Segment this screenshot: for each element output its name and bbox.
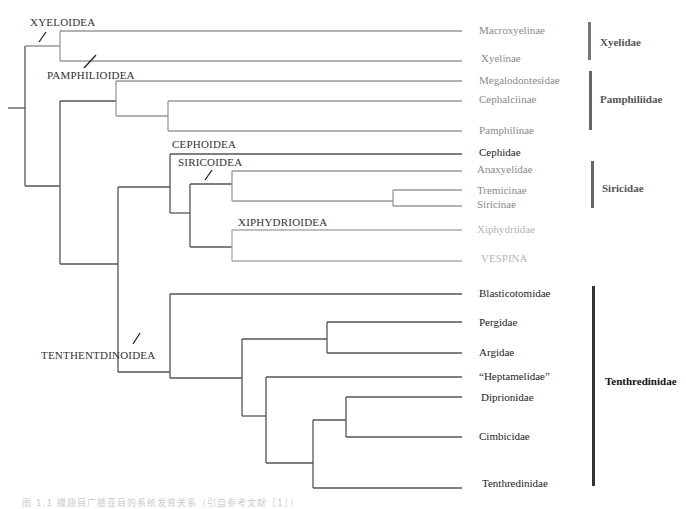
family-label-siricidae: Siricidae [602, 183, 644, 194]
family-label-xyelidae: Xyelidae [600, 37, 641, 48]
leaf-pamphilinae: Pamphilinae [479, 125, 534, 136]
family-bar-xyelidae [588, 22, 591, 60]
family-bar-pamphiliidae [589, 71, 592, 130]
leaf-cephalciinae: Cephalciinae [479, 94, 536, 105]
clade-label-pamphilioidea: PAMPHILIOIDEA [47, 70, 135, 81]
clade-label-siricoidea: SIRICOIDEA [178, 157, 242, 168]
family-bar-tenthredinidae [592, 286, 595, 486]
leaf-tremicinae: Tremicinae [477, 185, 527, 196]
leaf-anaxyelidae: Anaxyelidae [477, 164, 533, 175]
leaf-siricinae: Siricinae [477, 199, 516, 210]
family-bar-siricidae [591, 161, 594, 208]
leaf-xyelinae: Xyelinae [481, 53, 521, 64]
leaf-cephidae: Cephidae [479, 147, 521, 158]
clade-label-xyeloidea: XYELOIDEA [30, 17, 95, 28]
root-branches [8, 46, 118, 372]
family-label-pamphiliidae: Pamphiliidae [600, 94, 662, 105]
clade-label-xiphydrioidea: XIPHYDRIOIDEA [238, 217, 327, 228]
leaf-vespina: VESPINA [481, 253, 527, 264]
leaf-heptamelidae: “Heptamelidae” [479, 371, 550, 382]
family-label-tenthredinidae: Tenthredinidae [605, 376, 677, 387]
tenthredinoidea-branches [118, 294, 462, 488]
xyeloidea-branches [25, 31, 462, 61]
xiphydrioidea-branches [232, 230, 462, 261]
siricoidea-branches [232, 171, 462, 206]
clade-label-cephoidea: CEPHOIDEA [172, 139, 236, 150]
leaf-pergidae: Pergidae [479, 317, 517, 328]
leaf-cimbicidae: Cimbicidae [479, 431, 530, 442]
leaf-argidae: Argidae [479, 347, 514, 358]
figure-caption: 图 1.1 膜翅目广腰亚目的系统发育关系（引自参考文献［1］） [22, 496, 300, 509]
leaf-xiphydriidae: Xiphydriidae [477, 224, 535, 235]
clade-label-tenthredinoidea: TENTHENTDINOIDEA [41, 350, 155, 361]
pamphilioidea-branches [60, 81, 462, 131]
leaf-tenthredinidae: Tenthredinidae [482, 478, 548, 489]
leaf-diprionidae: Diprionidae [481, 392, 534, 403]
leaf-blasticotomidae: Blasticotomidae [479, 288, 550, 299]
leaf-macroxyelinae: Macroxyelinae [479, 25, 545, 36]
leaf-megalodontesidae: Megalodontesidae [479, 75, 560, 86]
